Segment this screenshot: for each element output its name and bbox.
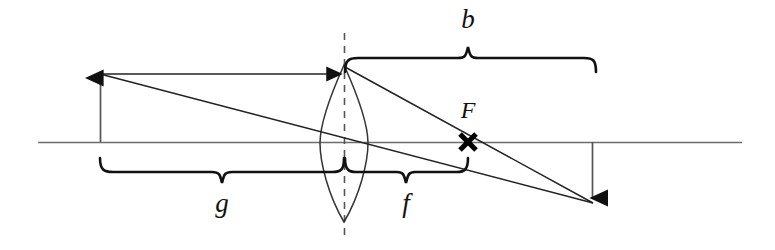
ray-diagram-canvas: b g f F xyxy=(0,0,775,250)
brace-object-distance xyxy=(100,158,344,183)
ray-chief-through-center xyxy=(100,74,593,203)
label-object-distance: g xyxy=(215,188,229,218)
brace-image-distance xyxy=(345,47,596,72)
label-image-distance: b xyxy=(461,4,475,34)
optics-ray-diagram: b g f F xyxy=(0,0,775,250)
ray-refracted-through-focus xyxy=(345,67,593,203)
brace-focal-length xyxy=(345,158,468,183)
label-focal-point: F xyxy=(460,97,476,123)
label-focal-length: f xyxy=(402,188,413,218)
